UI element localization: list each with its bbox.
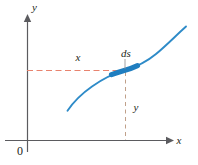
curve-group: ds: [68, 27, 187, 111]
ds-label: ds: [121, 47, 131, 59]
y-guide-label: y: [133, 101, 139, 113]
x-axis-label: x: [176, 134, 182, 146]
y-axis-arrow-icon: [24, 14, 31, 22]
x-axis-arrow-icon: [166, 137, 174, 144]
y-axis-label: y: [31, 1, 37, 13]
arc-length-figure: y x 0 x y ds: [0, 0, 198, 165]
guide-lines-group: x y: [27, 51, 139, 140]
axes-group: y x 0: [5, 1, 182, 158]
x-guide-label: x: [75, 51, 81, 63]
origin-label: 0: [17, 144, 23, 158]
figure-canvas: y x 0 x y ds: [0, 0, 198, 165]
